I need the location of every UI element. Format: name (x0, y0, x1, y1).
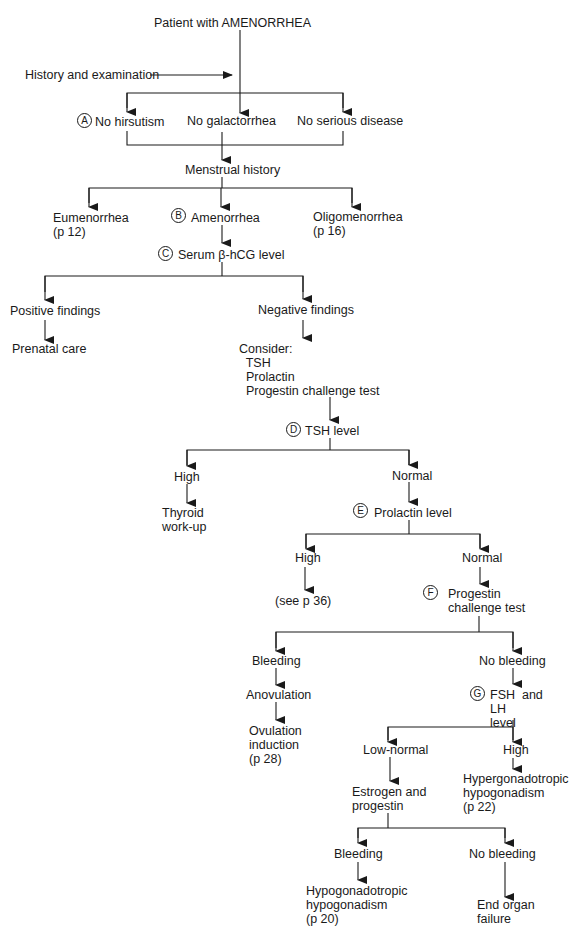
node-see-p36: (see p 36) (275, 594, 331, 608)
node-anovulation: Anovulation (246, 688, 311, 702)
node-estrogen-progestin: Estrogen and progestin (352, 785, 426, 813)
node-fsh-lh: FSH and LH level (490, 688, 543, 730)
step-marker-e: E (353, 503, 368, 518)
node-menstrual-history: Menstrual history (185, 163, 280, 177)
step-marker-g: G (470, 686, 485, 701)
node-hypogonadotropic: Hypogonadotropic hypogonadism (p 20) (306, 884, 407, 926)
node-tsh-level: TSH level (305, 424, 359, 438)
node-thyroid-workup: Thyroid work-up (162, 506, 206, 534)
node-positive-findings: Positive findings (10, 304, 100, 318)
node-end-organ-failure: End organ failure (477, 898, 535, 926)
node-serum-hcg: Serum β-hCG level (178, 248, 285, 262)
node-hypergonadotropic: Hypergonadotropic hypogonadism (p 22) (463, 772, 569, 814)
node-root: Patient with AMENORRHEA (154, 16, 311, 30)
node-ovulation-induction: Ovulation induction (p 28) (249, 724, 302, 766)
node-pct-no-bleeding: No bleeding (479, 654, 546, 668)
step-marker-b: B (171, 208, 186, 223)
node-ep-bleeding: Bleeding (334, 847, 383, 861)
node-low-normal: Low-normal (363, 743, 428, 757)
amenorrhea-flowchart: Patient with AMENORRHEA History and exam… (0, 0, 571, 933)
node-consider: Consider: TSH Prolactin Progestin challe… (239, 342, 379, 398)
node-prolactin-normal: Normal (462, 551, 502, 565)
node-prolactin-level: Prolactin level (374, 506, 452, 520)
node-oligomenorrhea: Oligomenorrhea (p 16) (313, 210, 403, 238)
node-ep-no-bleeding: No bleeding (469, 847, 536, 861)
node-no-serious-disease: No serious disease (297, 114, 403, 128)
node-eumenorrhea: Eumenorrhea (p 12) (53, 211, 129, 239)
node-negative-findings: Negative findings (258, 303, 354, 317)
step-marker-c: C (158, 246, 173, 261)
node-history-exam: History and examination (25, 68, 159, 82)
step-marker-a: A (77, 113, 92, 128)
node-pct-bleeding: Bleeding (252, 654, 301, 668)
node-tsh-high: High (174, 470, 200, 484)
node-prolactin-high: High (295, 551, 321, 565)
node-prenatal-care: Prenatal care (12, 342, 86, 356)
step-marker-d: D (286, 422, 301, 437)
node-no-galactorrhea: No galactorrhea (187, 114, 276, 128)
step-marker-f: F (423, 585, 438, 600)
node-progestin-challenge: Progestin challenge test (448, 587, 525, 615)
node-no-hirsutism: No hirsutism (95, 115, 164, 129)
node-amenorrhea: Amenorrhea (191, 211, 260, 225)
node-fsh-high: High (503, 743, 529, 757)
node-tsh-normal: Normal (392, 469, 432, 483)
